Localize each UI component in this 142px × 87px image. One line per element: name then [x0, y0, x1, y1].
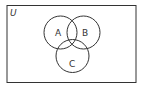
venn-diagram: U A B C [0, 0, 142, 87]
set-c-label: C [69, 59, 75, 69]
set-b-label: B [82, 28, 88, 38]
set-a-label: A [55, 28, 62, 38]
universe-label: U [10, 8, 17, 18]
